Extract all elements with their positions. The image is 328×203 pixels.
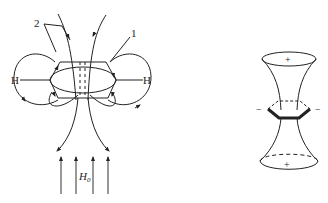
top-cone-sign: +	[285, 54, 291, 65]
left-field-loop	[14, 54, 58, 105]
field-line-bottom-right	[88, 98, 108, 150]
bottom-cone-right-side	[297, 118, 318, 161]
label-proton-right: H	[143, 74, 151, 86]
field-line-top-right-arrow	[93, 32, 95, 36]
inner-loop-right	[90, 92, 115, 106]
label-1: 1	[131, 27, 137, 39]
field-line-bottom-left-arrow	[57, 147, 61, 151]
bottom-cone-sign: +	[284, 159, 290, 170]
diagram-canvas: 2 1 H H H0 + + − −	[0, 0, 328, 203]
ring-current-arrow-right	[113, 73, 114, 77]
ring-current-ellipse	[50, 67, 116, 93]
benzene-ring-back	[268, 101, 310, 109]
field-line-top-left	[58, 14, 76, 100]
benzene-ring-current-figure	[14, 14, 151, 194]
right-sign: −	[315, 104, 321, 115]
ring-current-arrow-bl	[53, 92, 55, 96]
right-loop-arrow	[135, 105, 140, 108]
label-2: 2	[34, 17, 40, 29]
label-applied-field: H0	[78, 170, 91, 184]
shielding-cone-figure	[260, 52, 318, 169]
top-cone-right-side	[297, 59, 316, 110]
leader-line-2	[44, 24, 70, 52]
leader-line-1	[110, 37, 130, 62]
inner-loop-left	[49, 92, 78, 106]
field-line-bottom-right-arrow	[105, 147, 109, 151]
left-sign: −	[256, 104, 262, 115]
bottom-cone-left-side	[260, 118, 281, 161]
top-cone-left-side	[262, 59, 281, 110]
label-proton-left: H	[11, 74, 19, 86]
field-line-top-right	[88, 15, 106, 100]
benzene-ring-front	[268, 109, 310, 118]
